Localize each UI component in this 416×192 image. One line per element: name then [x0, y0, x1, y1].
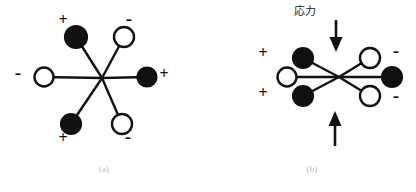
- charge-sign-top-left: +: [256, 45, 270, 61]
- panel-b-caption: (b): [208, 164, 416, 174]
- node-right-black: [382, 67, 402, 87]
- node-left-white: [278, 68, 297, 87]
- node-top-right-white: [360, 48, 380, 68]
- node-bottom-left-black: [293, 86, 313, 106]
- node-bottom-right-white: [360, 86, 380, 106]
- charge-sign-right: +: [157, 66, 171, 82]
- stress-arrow-bottom: [329, 111, 342, 146]
- node-right-black: [138, 68, 157, 87]
- charge-sign-top-right: -: [122, 9, 136, 28]
- node-left-white: [35, 68, 54, 87]
- panel-a-caption: (a): [0, 164, 208, 174]
- charge-sign-top-left: +: [56, 12, 70, 28]
- node-top-left-black: [65, 26, 87, 48]
- charge-sign-bottom-left: +: [256, 85, 270, 101]
- charge-sign-bottom-right: -: [389, 86, 403, 105]
- charge-sign-bottom-left: +: [56, 130, 70, 146]
- figure-panel-a: + - - + + - (a): [0, 0, 208, 192]
- panel-a-arm-nodes: [35, 26, 157, 134]
- node-top-left-black: [293, 48, 313, 68]
- charge-sign-left: -: [11, 63, 25, 82]
- stress-label: 応力: [294, 6, 316, 17]
- figure-panel-b: 応力 + - + - (b): [208, 0, 416, 192]
- stress-arrow-top: [330, 20, 343, 52]
- node-top-right-white: [114, 27, 134, 47]
- charge-sign-bottom-right: -: [121, 127, 135, 146]
- panel-a-arm-lines: [44, 37, 147, 124]
- charge-sign-top-right: -: [389, 41, 403, 60]
